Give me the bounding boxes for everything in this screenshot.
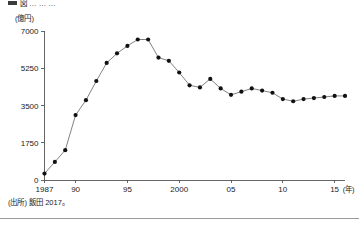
data-point [239,90,243,94]
x-axis-unit-label: (年) [343,184,355,194]
data-point [312,96,316,100]
data-point [291,99,295,103]
data-point [219,86,223,90]
y-tick-label: 5250 [21,64,39,73]
data-point [136,37,140,41]
data-point [270,91,274,95]
data-point [301,97,305,101]
data-point [322,95,326,99]
line-chart: 01750350052507000 198790952000051015 (年) [0,0,359,227]
y-axis-tick-marks [41,31,45,180]
y-tick-label: 7000 [21,27,39,36]
data-point [177,70,181,74]
data-point [260,89,264,93]
data-point [187,83,191,87]
data-point [105,61,109,65]
plot-area: 01750350052507000 198790952000051015 (年) [0,0,359,227]
x-tick-label: 05 [227,185,236,194]
data-point [250,86,254,90]
data-point [198,85,202,89]
series-data-points [42,37,347,175]
series-line [45,40,346,174]
y-tick-label: 0 [34,176,39,185]
bottom-divider [0,218,359,219]
data-point [53,160,57,164]
data-point [208,77,212,81]
x-tick-label: 2000 [170,185,188,194]
data-point [73,113,77,117]
data-point [84,98,88,102]
data-point [42,172,46,176]
data-point [156,56,160,60]
y-tick-label: 3500 [21,102,39,111]
x-tick-label: 90 [71,185,80,194]
x-axis-tick-labels: 198790952000051015 [36,185,340,194]
x-tick-label: 15 [330,185,339,194]
data-point [343,94,347,98]
data-point [146,37,150,41]
x-tick-label: 10 [278,185,287,194]
y-tick-label: 1750 [21,139,39,148]
data-point [167,59,171,63]
x-tick-label: 95 [123,185,132,194]
data-point [94,79,98,83]
data-point [333,94,337,98]
figure-container: 図 … … … (億円) 01750350052507000 198790952… [0,0,359,227]
data-point [125,44,129,48]
data-point [115,51,119,55]
source-note: (出所) 飯田 2017。 [8,198,69,208]
data-point [63,148,67,152]
data-point [229,93,233,97]
y-axis-tick-labels: 01750350052507000 [21,27,39,185]
data-point [281,97,285,101]
x-tick-label: 1987 [36,185,54,194]
